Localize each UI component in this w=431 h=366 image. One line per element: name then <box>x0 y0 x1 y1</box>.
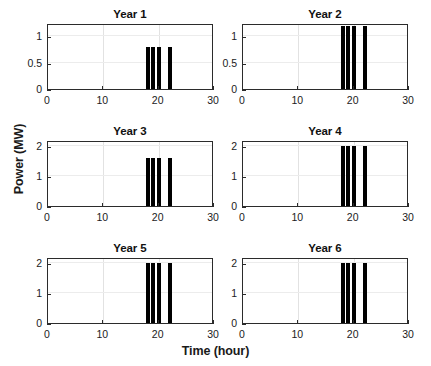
x-axis-tick-mark <box>408 320 409 324</box>
x-axis-tick-mark <box>47 86 48 90</box>
y-axis-tick-mark <box>47 324 51 325</box>
x-axis-tick-label: 0 <box>32 94 62 106</box>
x-axis-tick-mark <box>102 320 103 324</box>
y-axis-tick-label: 2 <box>208 257 237 269</box>
x-axis-tick-label: 10 <box>282 211 312 223</box>
y-axis-label: Power (MW) <box>12 109 26 209</box>
x-axis-tick-label: 0 <box>227 211 257 223</box>
gridline-horizontal <box>48 262 212 263</box>
bar <box>341 263 345 323</box>
x-axis-tick-label: 30 <box>393 328 423 340</box>
bar <box>151 158 155 206</box>
y-axis-tick-mark <box>242 324 246 325</box>
y-axis-tick-label: 1 <box>13 170 42 182</box>
y-axis-tick-mark <box>242 177 246 178</box>
gridline-horizontal <box>243 35 407 36</box>
x-axis-tick-mark <box>242 320 243 324</box>
x-axis-tick-mark <box>158 320 159 324</box>
figure-container: Power (MW) Time (hour) Year 100.51010203… <box>0 0 431 366</box>
subplot-title: Year 2 <box>242 8 408 20</box>
x-axis-tick-mark <box>353 320 354 324</box>
y-axis-tick-mark <box>47 90 51 91</box>
gridline-vertical <box>103 142 104 206</box>
y-axis-tick-mark <box>242 64 246 65</box>
x-axis-tick-label: 20 <box>143 328 173 340</box>
x-axis-tick-label: 10 <box>87 211 117 223</box>
gridline-horizontal <box>48 62 212 63</box>
x-axis-tick-label: 30 <box>393 211 423 223</box>
y-axis-tick-mark <box>47 207 51 208</box>
bar <box>346 146 350 206</box>
x-axis-tick-mark <box>408 203 409 207</box>
x-axis-tick-label: 10 <box>282 94 312 106</box>
plot-area <box>242 258 408 324</box>
x-axis-tick-mark <box>242 203 243 207</box>
y-axis-tick-label: 0.5 <box>208 57 237 69</box>
bar <box>352 146 356 206</box>
x-axis-tick-label: 0 <box>227 328 257 340</box>
y-axis-tick-label: 2 <box>13 140 42 152</box>
x-axis-tick-label: 30 <box>198 328 228 340</box>
y-axis-tick-label: 1 <box>208 170 237 182</box>
y-axis-tick-mark <box>47 177 51 178</box>
subplot-title: Year 5 <box>47 242 213 254</box>
y-axis-tick-mark <box>242 147 246 148</box>
y-axis-tick-mark <box>47 294 51 295</box>
subplot-title: Year 4 <box>242 125 408 137</box>
y-axis-tick-label: 1 <box>13 287 42 299</box>
bar <box>157 263 161 323</box>
bar <box>363 146 367 206</box>
y-axis-tick-label: 2 <box>208 140 237 152</box>
x-axis-tick-mark <box>158 203 159 207</box>
x-axis-tick-label: 30 <box>198 94 228 106</box>
bar <box>352 26 356 89</box>
gridline-horizontal <box>243 175 407 176</box>
gridline-horizontal <box>48 175 212 176</box>
bar <box>146 263 150 323</box>
bar <box>168 263 172 323</box>
y-axis-tick-mark <box>47 37 51 38</box>
plot-area <box>47 24 213 90</box>
subplot-title: Year 6 <box>242 242 408 254</box>
x-axis-tick-label: 20 <box>143 94 173 106</box>
x-axis-tick-mark <box>102 86 103 90</box>
x-axis-tick-mark <box>47 320 48 324</box>
x-axis-tick-label: 30 <box>198 211 228 223</box>
bar <box>352 263 356 323</box>
y-axis-tick-mark <box>242 37 246 38</box>
y-axis-tick-mark <box>242 264 246 265</box>
bar <box>146 47 150 89</box>
x-axis-tick-label: 20 <box>338 328 368 340</box>
subplot-title: Year 3 <box>47 125 213 137</box>
x-axis-tick-label: 0 <box>32 328 62 340</box>
x-axis-tick-mark <box>408 86 409 90</box>
bar <box>341 26 345 89</box>
gridline-vertical <box>298 142 299 206</box>
gridline-horizontal <box>243 62 407 63</box>
bar <box>341 146 345 206</box>
x-axis-tick-label: 10 <box>87 328 117 340</box>
gridline-horizontal <box>243 145 407 146</box>
x-axis-tick-label: 10 <box>87 94 117 106</box>
bar <box>346 26 350 89</box>
y-axis-tick-label: 2 <box>13 257 42 269</box>
gridline-horizontal <box>243 262 407 263</box>
plot-area <box>47 141 213 207</box>
x-axis-tick-mark <box>158 86 159 90</box>
bar <box>168 47 172 89</box>
bar <box>363 26 367 89</box>
x-axis-tick-label: 10 <box>282 328 312 340</box>
y-axis-tick-label: 1 <box>208 287 237 299</box>
y-axis-tick-mark <box>47 264 51 265</box>
x-axis-tick-mark <box>353 86 354 90</box>
x-axis-tick-label: 30 <box>393 94 423 106</box>
gridline-horizontal <box>48 145 212 146</box>
x-axis-tick-mark <box>297 320 298 324</box>
x-axis-tick-mark <box>242 86 243 90</box>
y-axis-tick-mark <box>47 147 51 148</box>
y-axis-tick-mark <box>47 64 51 65</box>
y-axis-tick-label: 1 <box>13 30 42 42</box>
bar <box>363 263 367 323</box>
gridline-horizontal <box>48 35 212 36</box>
bar <box>346 263 350 323</box>
